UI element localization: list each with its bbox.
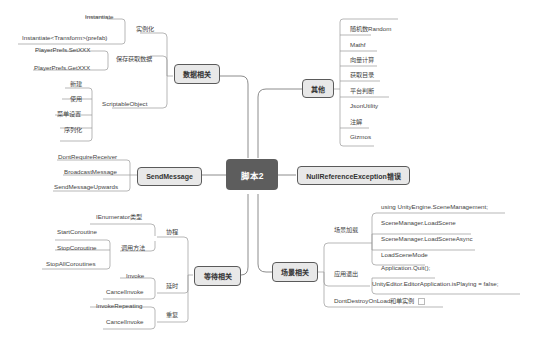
group-instantiate[interactable]: 实例化: [136, 25, 154, 33]
leaf-loadsceneasync[interactable]: SceneManager.LoadSceneAsync: [381, 235, 473, 243]
leaf-instantiate-generic[interactable]: Instantiate<Transform>(prefab): [22, 34, 107, 42]
leaf-stopcoroutine[interactable]: StopCoroutine: [57, 244, 97, 252]
leaf-ienumerator[interactable]: IEnumerator类型: [96, 213, 142, 221]
group-playerprefs[interactable]: 保存获取数据: [116, 55, 152, 63]
leaf-sendmessageupwards[interactable]: SendMessageUpwards: [54, 183, 118, 191]
group-delay[interactable]: 延时: [166, 282, 178, 290]
leaf-stopallcoroutines[interactable]: StopAllCoroutines: [46, 260, 96, 268]
leaf-so-menu[interactable]: 菜单设置: [57, 110, 81, 118]
leaf-playerprefs-set[interactable]: PlayerPrefs.SetXXX: [35, 46, 90, 54]
leaf-gizmos[interactable]: Gizmos: [350, 133, 371, 141]
group-call-methods[interactable]: 调用方法: [121, 244, 145, 252]
leaf-invoke[interactable]: Invoke: [126, 272, 144, 280]
topic-sendmessage[interactable]: SendMessage: [137, 167, 202, 186]
leaf-annotation[interactable]: 注解: [350, 118, 362, 126]
leaf-so-new[interactable]: 新建: [70, 80, 82, 88]
leaf-so-use[interactable]: 使用: [70, 95, 82, 103]
leaf-startcoroutine[interactable]: StartCoroutine: [57, 228, 97, 236]
leaf-invokerepeating[interactable]: InvokeRepeating: [96, 302, 142, 310]
leaf-vector[interactable]: 向量计算: [350, 56, 374, 64]
group-repeat[interactable]: 重复: [166, 311, 178, 319]
leaf-playerprefs-get[interactable]: PlayerPrefs.GetXXX: [34, 64, 90, 72]
leaf-editor-isplaying[interactable]: UnityEditor.EditorApplication.isPlaying …: [372, 280, 498, 288]
group-scriptableobject[interactable]: ScriptableObject: [102, 100, 147, 108]
leaf-jsonutility[interactable]: JsonUtility: [350, 102, 378, 110]
leaf-dontrequirereceiver[interactable]: DontRequireReceiver: [58, 153, 117, 161]
group-scene-load[interactable]: 场景加载: [334, 226, 358, 234]
leaf-random[interactable]: 随机数Random: [350, 25, 391, 33]
leaf-loadscenemode[interactable]: LoadSceneMode: [381, 251, 428, 259]
mind-map-canvas: 脚本2 数据相关 SendMessage 等待相关 其他 NullReferen…: [0, 0, 539, 343]
group-app-quit[interactable]: 应用退出: [334, 270, 358, 278]
leaf-using-scenemanagement[interactable]: using UnityEngine.SceneManagement;: [381, 203, 488, 211]
topic-scene[interactable]: 场景相关: [272, 262, 318, 282]
leaf-instantiate[interactable]: Instantiate: [85, 13, 114, 21]
topic-wait[interactable]: 等待相关: [194, 266, 241, 286]
group-coroutine[interactable]: 协程: [166, 228, 178, 236]
dontdestroyonload-label: DontDestroyOnLoad和单实例: [334, 297, 414, 304]
leaf-application-quit[interactable]: Application.Quit();: [381, 264, 430, 272]
leaf-cancelinvoke-2[interactable]: CancelInvoke: [106, 318, 144, 326]
leaf-broadcastmessage[interactable]: BroadcastMessage: [64, 168, 117, 176]
topic-other[interactable]: 其他: [302, 79, 334, 98]
leaf-platform[interactable]: 平台判断: [350, 87, 374, 95]
leaf-loadscene[interactable]: SceneManager.LoadScene: [381, 219, 456, 227]
topic-nullref[interactable]: NullReferenceException错误: [297, 166, 410, 185]
central-topic[interactable]: 脚本2: [226, 159, 278, 190]
leaf-directory[interactable]: 获取目录: [350, 71, 374, 79]
leaf-mathf[interactable]: Mathf: [350, 41, 365, 49]
group-dontdestroyonload[interactable]: DontDestroyOnLoad和单实例: [334, 297, 425, 305]
note-icon[interactable]: [418, 298, 425, 305]
leaf-cancelinvoke-1[interactable]: CancelInvoke: [106, 288, 144, 296]
leaf-so-serialize[interactable]: 序列化: [64, 126, 82, 134]
topic-data[interactable]: 数据相关: [174, 64, 220, 84]
